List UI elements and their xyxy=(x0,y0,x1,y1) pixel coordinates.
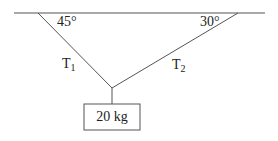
tension-t1-label: T1 xyxy=(62,57,76,71)
t1-sub: 1 xyxy=(71,62,76,73)
tension-t2-label: T2 xyxy=(172,58,186,72)
angle-45-label: 45° xyxy=(57,15,77,29)
t2-main: T xyxy=(172,57,181,72)
angle-30-label: 30° xyxy=(200,15,220,29)
mass-label: 20 kg xyxy=(84,110,140,124)
t1-main: T xyxy=(62,56,71,71)
t2-sub: 2 xyxy=(181,63,186,74)
